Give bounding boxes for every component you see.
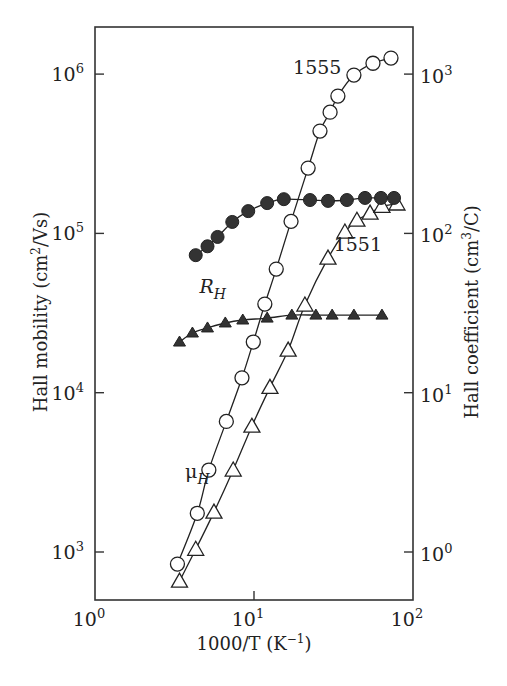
data-point-filled-triangle <box>326 309 338 319</box>
data-point-open-triangle <box>225 462 241 476</box>
y-tick-label: 104 <box>52 380 84 404</box>
data-point-filled-triangle <box>376 309 388 319</box>
plot-frame <box>95 27 413 600</box>
series-line <box>180 204 398 581</box>
data-point-open-circle <box>331 89 345 103</box>
data-point-open-circle <box>235 371 249 385</box>
data-point-open-triangle <box>262 379 278 393</box>
data-point-filled-circle <box>226 215 239 228</box>
data-point-filled-circle <box>321 194 334 207</box>
annotation-layer: 15551551RHμH <box>185 56 382 487</box>
data-point-open-circle <box>269 262 283 276</box>
data-point-open-circle <box>219 414 233 428</box>
y2-tick-label: 103 <box>420 63 452 87</box>
x-tick-label: 100 <box>73 606 105 630</box>
series-line <box>177 58 391 564</box>
y-axis-title: Hall mobility (cm2/Vs) <box>29 212 51 413</box>
data-point-filled-circle <box>189 249 202 262</box>
data-point-open-circle <box>246 335 260 349</box>
data-point-open-circle <box>284 214 298 228</box>
annotation-label-1551: 1551 <box>334 233 382 255</box>
data-point-open-triangle <box>297 297 313 311</box>
y2-axis-title: Hall coefficient (cm3/C) <box>460 205 482 419</box>
data-point-open-circle <box>384 51 398 65</box>
data-point-open-circle <box>170 557 184 571</box>
y2-tick-label: 101 <box>420 382 452 406</box>
data-point-open-triangle <box>172 573 188 587</box>
series-h-sample-1555 <box>170 51 398 571</box>
data-point-open-circle <box>190 506 204 520</box>
data-point-filled-triangle <box>186 327 198 337</box>
x-tick-label: 102 <box>391 606 423 630</box>
annotation-label-1555: 1555 <box>293 56 341 78</box>
y2-tick-label: 102 <box>420 222 452 246</box>
data-point-filled-triangle <box>286 309 298 319</box>
data-point-open-circle <box>258 297 272 311</box>
y-tick-label: 103 <box>52 539 84 563</box>
y-tick-label: 105 <box>52 220 84 244</box>
x-tick-label: 101 <box>232 606 264 630</box>
annotation-label-RH: RH <box>198 275 226 302</box>
y-tick-label: 106 <box>52 61 84 85</box>
data-point-open-circle <box>301 161 315 175</box>
data-point-open-circle <box>366 56 380 70</box>
data-point-filled-triangle <box>174 336 186 346</box>
data-point-filled-circle <box>303 194 316 207</box>
data-point-filled-circle <box>261 197 274 210</box>
data-point-open-triangle <box>280 342 296 356</box>
data-point-open-triangle <box>188 541 204 555</box>
data-point-filled-circle <box>242 205 255 218</box>
data-point-open-triangle <box>244 418 260 432</box>
data-point-filled-circle <box>211 230 224 243</box>
data-point-filled-circle <box>388 191 401 204</box>
series-h-sample-1551 <box>172 196 405 587</box>
data-point-filled-circle <box>358 191 371 204</box>
data-point-filled-circle <box>340 194 353 207</box>
data-point-open-circle <box>313 124 327 138</box>
x-axis-title: 1000/T (K−1) <box>197 632 312 654</box>
data-point-filled-circle <box>201 240 214 253</box>
series-layer <box>170 51 405 587</box>
data-point-filled-triangle <box>348 309 360 319</box>
hall-chart: 100101102103104105106100101102103 155515… <box>0 0 507 686</box>
data-point-open-circle <box>323 105 337 119</box>
data-point-open-circle <box>347 68 361 82</box>
y2-tick-label: 100 <box>420 541 452 565</box>
data-point-open-triangle <box>206 504 222 518</box>
data-point-filled-circle <box>277 193 290 206</box>
data-point-filled-circle <box>374 191 387 204</box>
series-r-h-sample-1551 <box>174 309 388 346</box>
